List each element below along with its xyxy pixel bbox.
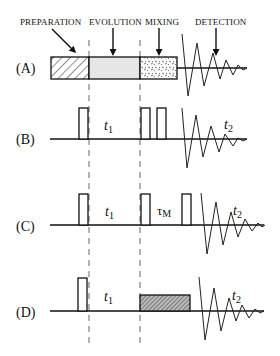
pulse-d-1 <box>78 278 87 311</box>
row-label-b: (B) <box>16 132 35 148</box>
pulse-c-3 <box>182 194 191 225</box>
nmr-pulse-sequence-diagram: PREPARATION EVOLUTION MIXING DETECTION (… <box>0 0 280 356</box>
t2-label-b: t2 <box>224 117 233 134</box>
label-mixing: MIXING <box>145 17 179 27</box>
preparation-block <box>51 57 89 79</box>
evolution-block <box>89 57 140 79</box>
taum-label-c: τM <box>157 203 171 219</box>
label-evolution: EVOLUTION <box>89 17 142 27</box>
pulse-b-2 <box>141 108 150 139</box>
row-a: (A) <box>16 34 247 96</box>
fid-b <box>182 108 247 168</box>
t1-label-c: t1 <box>105 204 114 221</box>
row-c: (C) t1 τM t2 <box>16 193 265 254</box>
row-label-c: (C) <box>16 219 35 235</box>
t2-label-c: t2 <box>233 203 242 220</box>
label-preparation: PREPARATION <box>20 17 82 27</box>
arrow-preparation-icon <box>52 29 74 51</box>
mixing-block <box>140 57 177 79</box>
fid-d <box>199 277 264 340</box>
phase-labels: PREPARATION EVOLUTION MIXING DETECTION <box>20 17 247 53</box>
spin-lock-block <box>140 295 190 311</box>
t2-label-d: t2 <box>232 288 241 305</box>
pulse-c-2 <box>141 194 150 225</box>
t1-label-b: t1 <box>104 118 113 135</box>
label-detection: DETECTION <box>195 17 247 27</box>
t1-label-d: t1 <box>104 289 113 306</box>
pulse-c-1 <box>79 194 88 225</box>
row-label-d: (D) <box>16 305 36 321</box>
row-b: (B) t1 t2 <box>16 108 247 168</box>
pulse-b-3 <box>157 108 166 139</box>
fid-a <box>182 34 247 96</box>
pulse-b-1 <box>79 108 88 139</box>
row-label-a: (A) <box>16 61 36 77</box>
